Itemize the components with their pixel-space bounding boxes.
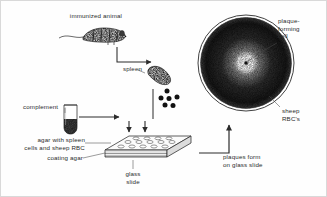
label-glass-slide: glass slide [114, 170, 152, 185]
spleen-cells-group [159, 89, 180, 109]
plaque-assay-figure: immunized animal spleen complement agar … [0, 0, 327, 197]
mouse-illustration [59, 28, 126, 45]
arrow-mouse-to-spleen [117, 47, 151, 62]
label-plaques-form: plaques form on glass slide [223, 153, 263, 168]
label-agar-with-spleen-cells: agar with spleen cells and sheep RBC [1, 136, 85, 151]
arrow-slide-to-plaque-view [199, 125, 229, 153]
label-immunized-animal: immunized animal [53, 12, 139, 20]
test-tube-illustration [64, 105, 77, 134]
glass-slide-illustration [105, 136, 191, 157]
arrows-onto-slide [129, 121, 145, 132]
label-spleen: spleen [123, 65, 142, 73]
label-complement: complement [23, 103, 58, 111]
label-coating-agar: coating agar [1, 154, 83, 162]
label-sheep-rbcs: sheep RBC's [282, 107, 300, 122]
leader-coating-agar [83, 153, 105, 158]
spleen-illustration [148, 66, 171, 84]
label-plaque-forming-cell: plaque- forming cell [278, 17, 300, 40]
